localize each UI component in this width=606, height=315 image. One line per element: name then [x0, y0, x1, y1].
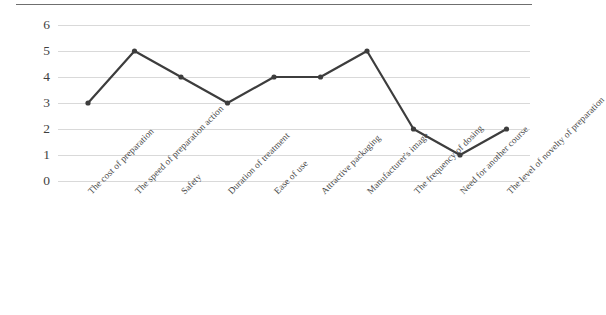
data-point[interactable]: [364, 48, 369, 53]
data-point[interactable]: [318, 74, 323, 79]
y-tick-label: 3: [10, 96, 50, 110]
data-point[interactable]: [411, 126, 416, 131]
header-divider: [16, 4, 532, 5]
data-point[interactable]: [271, 74, 276, 79]
y-axis-tick-labels: 6543210: [10, 25, 50, 181]
data-point[interactable]: [132, 48, 137, 53]
x-axis-tick-labels: The cost of preparationThe speed of prep…: [0, 181, 546, 315]
y-tick-label: 4: [10, 70, 50, 84]
y-tick-label: 2: [10, 122, 50, 136]
data-point[interactable]: [504, 126, 509, 131]
data-point[interactable]: [225, 100, 230, 105]
y-tick-label: 1: [10, 148, 50, 162]
y-tick-label: 5: [10, 44, 50, 58]
series-line: [88, 51, 507, 155]
y-tick-label: 6: [10, 18, 50, 32]
data-point[interactable]: [178, 74, 183, 79]
data-point[interactable]: [85, 100, 90, 105]
